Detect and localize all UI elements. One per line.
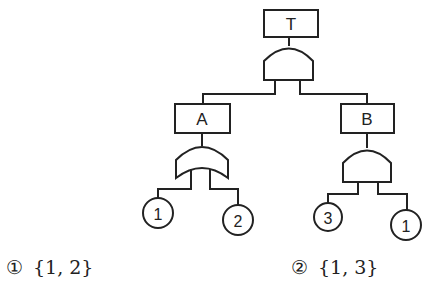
basic-event-label: 1	[154, 206, 163, 223]
basic-event-3: 3	[314, 203, 342, 231]
event-B: B	[341, 104, 394, 133]
basic-event-1-left: 1	[143, 198, 173, 228]
and-gate-icon	[264, 49, 313, 81]
basic-event-label: 3	[324, 210, 333, 227]
option-marker: ①	[6, 256, 23, 278]
event-A-label: A	[196, 110, 208, 129]
answer-option-2[interactable]: ②{1, 3}	[291, 256, 378, 278]
option-text: {1, 2}	[33, 256, 93, 278]
basic-event-2: 2	[223, 205, 253, 235]
event-B-label: B	[361, 110, 372, 129]
top-event-label: T	[286, 15, 296, 34]
option-text: {1, 3}	[318, 256, 378, 278]
option-marker: ②	[291, 256, 308, 278]
top-event-T: T	[264, 10, 318, 37]
or-gate-icon	[176, 147, 228, 178]
basic-event-label: 1	[402, 218, 411, 235]
and-gate-icon	[343, 151, 391, 183]
fault-tree-diagram: T A 1 2 B 3 1	[0, 0, 433, 285]
answer-option-1[interactable]: ①{1, 2}	[6, 256, 93, 278]
basic-event-1-right: 1	[391, 210, 421, 240]
event-A: A	[175, 104, 230, 133]
basic-event-label: 2	[234, 213, 243, 230]
